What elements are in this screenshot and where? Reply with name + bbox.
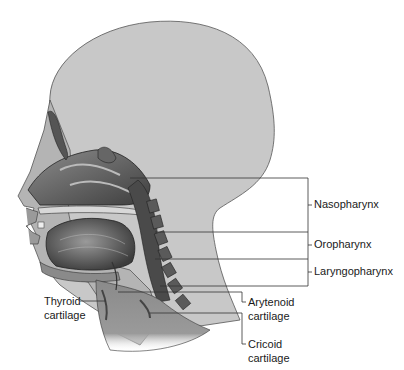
label-nasopharynx: Nasopharynx bbox=[314, 198, 379, 211]
label-thyroid-line1: Thyroid bbox=[44, 295, 81, 308]
label-arytenoid-line1: Arytenoid bbox=[248, 296, 294, 309]
label-cricoid-line1: Cricoid bbox=[248, 338, 282, 351]
anatomy-diagram: Nasopharynx Oropharynx Laryngopharynx Th… bbox=[0, 0, 404, 370]
teeth bbox=[38, 222, 44, 228]
label-oropharynx: Oropharynx bbox=[314, 238, 371, 251]
label-thyroid-line2: cartilage bbox=[44, 309, 86, 322]
label-arytenoid-line2: cartilage bbox=[248, 310, 290, 323]
tongue bbox=[46, 218, 135, 270]
label-cricoid-line2: cartilage bbox=[248, 352, 290, 365]
label-laryngopharynx: Laryngopharynx bbox=[314, 265, 393, 278]
